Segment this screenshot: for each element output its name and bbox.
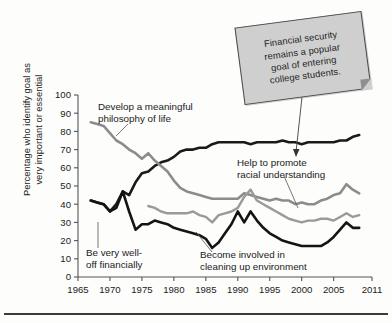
- annotation-line: cleaning up environment: [200, 261, 307, 272]
- y-tick-label: 10: [60, 253, 71, 264]
- y-axis-title: Percentage who identify goal as very imp…: [21, 35, 44, 225]
- annotation-financial: Be very well-off financially: [86, 247, 143, 270]
- x-tick-label: 2005: [323, 284, 344, 295]
- y-tick-label: 0: [66, 271, 71, 282]
- annotation-line: Be very well-: [86, 247, 142, 258]
- x-tick-label: 2000: [291, 284, 312, 295]
- y-tick-label: 90: [60, 108, 71, 119]
- callout-arrowhead-icon: [293, 149, 300, 157]
- callout-note-text: Financial security remains a popular goa…: [234, 11, 371, 105]
- leader-line-philosophy: [116, 124, 128, 136]
- x-tick-label: 1995: [259, 284, 280, 295]
- x-tick-label: 1985: [195, 284, 216, 295]
- annotation-philosophy: Develop a meaningfulphilosophy of life: [98, 101, 193, 124]
- annotation-line: philosophy of life: [98, 113, 172, 124]
- y-tick-label: 50: [60, 180, 71, 191]
- x-tick-label: 1965: [67, 284, 88, 295]
- annotation-line: racial understanding: [237, 169, 325, 180]
- annotation-line: Help to promote: [237, 157, 307, 168]
- annotation-racial: Help to promoteracial understanding: [237, 157, 325, 180]
- x-tick-label: 1970: [99, 284, 120, 295]
- callout-note: Financial security remains a popular goa…: [234, 11, 371, 105]
- annotation-line: Become involved in: [200, 249, 285, 260]
- annotation-labels: Develop a meaningfulphilosophy of lifeBe…: [86, 101, 325, 272]
- chart-figure: 0102030405060708090100196519701975198019…: [0, 0, 392, 323]
- x-tick-label: 2011: [362, 284, 383, 295]
- x-tick-label: 1980: [163, 284, 184, 295]
- bottom-divider: [4, 313, 388, 315]
- annotation-line: Develop a meaningful: [98, 101, 193, 112]
- annotation-line: off financially: [86, 259, 143, 270]
- y-tick-label: 60: [60, 162, 71, 173]
- y-axis-title-line-2: very important or essential: [33, 35, 45, 225]
- x-tick-label: 1990: [227, 284, 248, 295]
- y-tick-label: 40: [60, 199, 71, 210]
- y-axis-title-line-1: Percentage who identify goal as: [21, 35, 33, 225]
- y-tick-label: 30: [60, 217, 71, 228]
- y-tick-label: 80: [60, 126, 71, 137]
- y-tick-label: 70: [60, 144, 71, 155]
- annotation-environment: Become involved incleaning up environmen…: [200, 249, 307, 272]
- x-tick-label: 1975: [131, 284, 152, 295]
- y-tick-label: 20: [60, 235, 71, 246]
- y-tick-label: 100: [55, 89, 71, 100]
- data-series: [91, 122, 359, 248]
